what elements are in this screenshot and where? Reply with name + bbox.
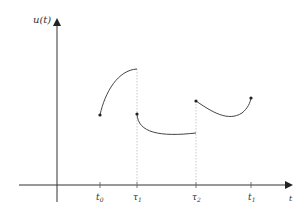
y-axis-label: u(t) (33, 14, 51, 25)
diagram-canvas: u(t) t t0 τ1 τ2 t1 (0, 0, 307, 214)
endpoint-dot-segment-1-start (98, 113, 101, 116)
tick-labels: t0 τ1 τ2 t1 (96, 192, 255, 203)
curve-segment-1 (100, 69, 137, 115)
endpoint-dot-segment-3-start (194, 99, 197, 102)
tick-label-t1: t1 (248, 192, 255, 203)
endpoint-dot-segment-3-end (249, 96, 252, 99)
curve-segment-2 (137, 114, 196, 134)
endpoint-dot-segment-2-start (135, 112, 138, 115)
tick-label-tau1: τ1 (133, 192, 142, 203)
tick-label-t0: t0 (96, 192, 104, 203)
x-axis-label: t (289, 194, 293, 203)
tick-label-tau2: τ2 (192, 192, 201, 203)
curve-segment-3 (196, 98, 251, 116)
